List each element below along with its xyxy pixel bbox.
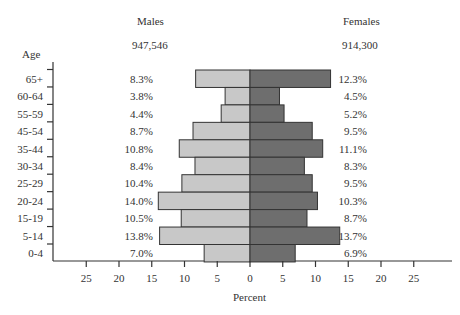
male-bar xyxy=(221,105,250,122)
female-percent-label: 9.5% xyxy=(344,125,367,137)
male-percent-label: 4.4% xyxy=(130,108,153,120)
x-tick-label: 10 xyxy=(179,272,191,284)
male-bar xyxy=(204,245,250,262)
x-tick-label: 20 xyxy=(376,272,388,284)
age-group-label: 25-29 xyxy=(17,177,43,189)
male-percent-label: 8.4% xyxy=(130,160,153,172)
female-percent-label: 10.3% xyxy=(339,195,367,207)
female-bar xyxy=(250,157,304,174)
male-bar xyxy=(181,210,250,227)
male-bar xyxy=(179,140,250,157)
age-group-label: 0-4 xyxy=(28,247,43,259)
male-bar xyxy=(195,157,250,174)
female-bar xyxy=(250,122,312,139)
x-tick-label: 25 xyxy=(408,272,420,284)
x-tick-label: 15 xyxy=(343,272,355,284)
male-percent-label: 3.8% xyxy=(130,90,153,102)
male-percent-label: 8.7% xyxy=(130,125,153,137)
male-bar xyxy=(158,192,250,209)
female-bar xyxy=(250,175,312,192)
female-percent-label: 5.2% xyxy=(344,108,367,120)
female-percent-label: 8.7% xyxy=(344,212,367,224)
plot-area: 65+8.3%12.3%60-643.8%4.5%55-594.4%5.2%45… xyxy=(0,0,460,315)
x-tick-label: 25 xyxy=(81,272,93,284)
male-percent-label: 10.5% xyxy=(125,212,153,224)
female-percent-label: 12.3% xyxy=(339,73,367,85)
male-bar xyxy=(182,175,250,192)
female-percent-label: 6.9% xyxy=(344,247,367,259)
female-percent-label: 11.1% xyxy=(339,143,367,155)
x-tick-label: 20 xyxy=(114,272,126,284)
male-percent-label: 8.3% xyxy=(130,73,153,85)
female-percent-label: 13.7% xyxy=(339,230,367,242)
female-bar xyxy=(250,105,284,122)
female-bar xyxy=(250,70,331,87)
x-tick-label: 10 xyxy=(310,272,322,284)
x-tick-label: 0 xyxy=(247,272,253,284)
female-percent-label: 4.5% xyxy=(344,90,367,102)
x-tick-label: 5 xyxy=(280,272,286,284)
age-group-label: 20-24 xyxy=(17,195,43,207)
age-group-label: 35-44 xyxy=(17,143,43,155)
male-percent-label: 7.0% xyxy=(130,247,153,259)
female-bar xyxy=(250,192,317,209)
female-bar xyxy=(250,210,307,227)
x-tick-label: 15 xyxy=(146,272,158,284)
age-group-label: 15-19 xyxy=(17,212,43,224)
male-percent-label: 13.8% xyxy=(125,230,153,242)
age-group-label: 45-54 xyxy=(17,125,43,137)
age-group-label: 30-34 xyxy=(17,160,43,172)
female-percent-label: 9.5% xyxy=(344,177,367,189)
female-bar xyxy=(250,87,279,104)
male-percent-label: 10.4% xyxy=(125,177,153,189)
age-group-label: 65+ xyxy=(26,73,43,85)
age-group-label: 60-64 xyxy=(17,90,43,102)
female-bar xyxy=(250,140,323,157)
male-percent-label: 10.8% xyxy=(125,143,153,155)
male-bar xyxy=(196,70,250,87)
age-group-label: 5-14 xyxy=(23,230,44,242)
female-percent-label: 8.3% xyxy=(344,160,367,172)
male-bar xyxy=(160,227,250,244)
x-tick-label: 5 xyxy=(215,272,221,284)
age-group-label: 55-59 xyxy=(17,108,43,120)
male-bar xyxy=(225,87,250,104)
male-percent-label: 14.0% xyxy=(125,195,153,207)
male-bar xyxy=(193,122,250,139)
female-bar xyxy=(250,227,340,244)
female-bar xyxy=(250,245,295,262)
